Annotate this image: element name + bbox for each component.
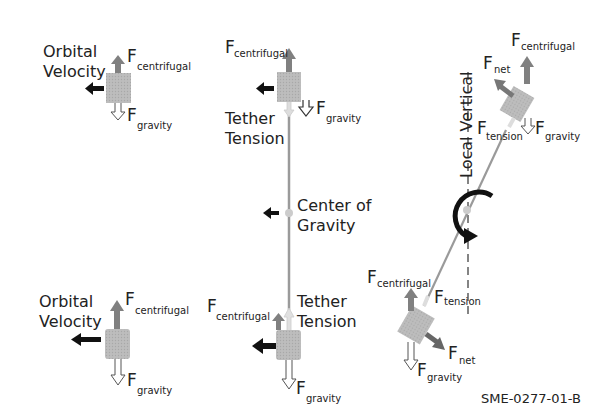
centrifugal-subscript: centrifugal bbox=[135, 305, 189, 316]
local-vertical-label: Local Vertical bbox=[457, 72, 476, 178]
gravity-arrow-icon bbox=[111, 103, 125, 120]
velocity-arrow-icon bbox=[256, 82, 274, 95]
tension-arrow-icon bbox=[284, 308, 294, 330]
orbital-velocity-label: Orbital bbox=[43, 42, 97, 61]
figure-code: SME-0277-01-B bbox=[481, 391, 581, 406]
panel-tilted-tether: Local Vertical F centrifugal F net F ten… bbox=[367, 30, 580, 383]
panel-free-mass-lower: Orbital Velocity F centrifugal F gravity bbox=[39, 289, 189, 396]
gravity-subscript: gravity bbox=[306, 393, 341, 404]
panel-free-mass-upper: Orbital Velocity F centrifugal F gravity bbox=[43, 42, 191, 131]
centrifugal-arrow-icon bbox=[272, 313, 285, 330]
lower-mass-block bbox=[276, 330, 301, 360]
net-arrow-icon bbox=[494, 79, 513, 96]
orbital-velocity-label-2: Velocity bbox=[39, 312, 102, 331]
centrifugal-arrow-icon bbox=[110, 300, 124, 329]
mass-block bbox=[105, 329, 130, 359]
centrifugal-arrow-icon bbox=[404, 288, 418, 311]
centrifugal-subscript: centrifugal bbox=[377, 278, 431, 289]
tether-tension-label-2: Tension bbox=[296, 312, 357, 331]
f-gravity-label: F bbox=[127, 105, 137, 125]
tether-tension-label-2: Tension bbox=[224, 129, 285, 148]
center-of-gravity-dot bbox=[463, 206, 471, 214]
orbital-velocity-label-2: Velocity bbox=[43, 62, 106, 81]
f-gravity-label: F bbox=[535, 118, 545, 138]
tension-arrow-icon bbox=[424, 296, 428, 306]
center-of-gravity-label-2: Gravity bbox=[297, 216, 355, 235]
velocity-arrow-icon bbox=[85, 82, 104, 95]
gravity-arrow-icon bbox=[404, 342, 418, 370]
f-centrifugal-label: F bbox=[127, 46, 137, 66]
gravity-arrow-icon bbox=[282, 360, 296, 389]
f-centrifugal-label: F bbox=[125, 289, 135, 309]
net-subscript: net bbox=[494, 64, 510, 75]
gravity-subscript: gravity bbox=[137, 120, 172, 131]
f-gravity-label: F bbox=[417, 360, 427, 380]
f-net-label: F bbox=[483, 53, 493, 73]
centrifugal-subscript: centrifugal bbox=[521, 41, 575, 52]
centrifugal-arrow-icon bbox=[520, 56, 534, 84]
f-centrifugal-label: F bbox=[511, 30, 521, 50]
tension-arrow-icon bbox=[509, 118, 514, 127]
tension-subscript: tension bbox=[486, 131, 523, 142]
f-net-label: F bbox=[448, 343, 458, 363]
f-gravity-label: F bbox=[316, 98, 326, 118]
gravity-arrow-icon bbox=[299, 100, 313, 116]
centrifugal-subscript: centrifugal bbox=[137, 61, 191, 72]
tether-force-diagram: Orbital Velocity F centrifugal F gravity… bbox=[0, 0, 608, 420]
upper-mass-block bbox=[277, 72, 301, 102]
gravity-subscript: gravity bbox=[427, 372, 462, 383]
centrifugal-arrow-icon bbox=[111, 55, 125, 73]
gravity-arrow-icon bbox=[111, 359, 125, 385]
f-gravity-label: F bbox=[296, 378, 306, 398]
f-tension-label: F bbox=[434, 287, 444, 307]
velocity-arrow-icon bbox=[263, 207, 279, 219]
orbital-velocity-label: Orbital bbox=[39, 292, 93, 311]
gravity-subscript: gravity bbox=[326, 113, 361, 124]
gravity-subscript: gravity bbox=[545, 131, 580, 142]
mass-block bbox=[106, 73, 131, 103]
f-gravity-label: F bbox=[127, 370, 137, 390]
center-of-gravity-label: Center of bbox=[297, 196, 372, 215]
tether-tension-label: Tether bbox=[224, 109, 275, 128]
diagram-canvas: Orbital Velocity F centrifugal F gravity… bbox=[0, 0, 608, 420]
tension-subscript: tension bbox=[444, 296, 481, 307]
tension-arrow-icon bbox=[284, 102, 294, 117]
center-of-gravity-dot bbox=[285, 209, 293, 217]
tether-tension-label: Tether bbox=[296, 292, 347, 311]
centrifugal-subscript: centrifugal bbox=[234, 48, 288, 59]
gravity-subscript: gravity bbox=[137, 385, 172, 396]
velocity-arrow-icon bbox=[71, 333, 101, 346]
centrifugal-subscript: centrifugal bbox=[216, 311, 270, 322]
net-arrow-icon bbox=[426, 334, 445, 350]
panel-vertical-tether: F centrifugal F gravity Tether Tension C… bbox=[207, 37, 372, 404]
f-centrifugal-label: F bbox=[367, 267, 377, 287]
velocity-arrow-icon bbox=[252, 338, 276, 354]
gravity-arrow-icon bbox=[521, 118, 535, 134]
net-subscript: net bbox=[459, 355, 475, 366]
